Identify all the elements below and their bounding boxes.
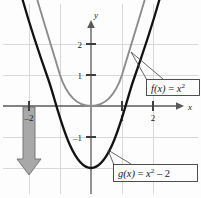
ytick-label-pos1: 1 xyxy=(78,71,83,81)
g-callout-text: g(x) = x2 – 2 xyxy=(118,167,170,180)
y-axis-label: y xyxy=(93,10,98,20)
g-label-eq: = xyxy=(135,168,146,179)
g-label-tail: – 2 xyxy=(154,168,170,179)
f-callout-text: f(x) = x2 xyxy=(151,82,185,95)
xtick-label-neg2: –2 xyxy=(24,113,34,123)
ytick-label-pos2: 2 xyxy=(78,40,83,50)
parabola-shift-figure: –2 1 2 2 1 –1 x y f(x) = x2 xyxy=(0,0,201,198)
x-axis-label: x xyxy=(187,102,192,112)
y-axis-arrowhead xyxy=(87,20,95,28)
g-label-fn: g(x) xyxy=(118,168,135,180)
f-label-fn: f(x) xyxy=(151,83,166,95)
xtick-label-pos2: 2 xyxy=(151,113,156,123)
x-axis-arrowhead xyxy=(176,102,184,110)
g-callout-leader xyxy=(108,150,131,165)
ytick-label-neg1: –1 xyxy=(72,133,82,143)
f-label-exp: 2 xyxy=(181,82,185,90)
f-label-eq: = xyxy=(166,83,177,94)
graph-canvas: –2 1 2 2 1 –1 x y f(x) = x2 xyxy=(0,0,201,198)
